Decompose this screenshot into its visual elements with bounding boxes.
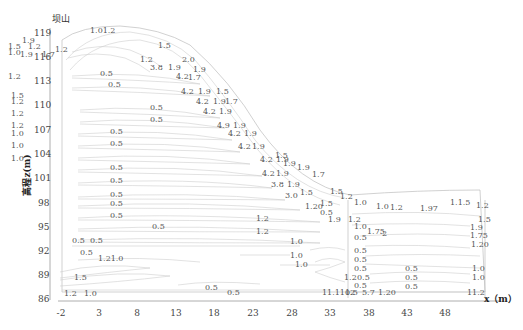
contour-label: 1.9 <box>168 63 181 72</box>
x-tick-labels: -2 3 8 13 18 23 28 33 38 43 48 <box>57 308 451 318</box>
contour-label: 1.2 <box>55 45 68 54</box>
x-tick: 18 <box>208 308 220 318</box>
contour-label: 0.5 <box>354 246 367 255</box>
contour-label: 1.0 <box>290 237 303 246</box>
contour-label: 1.0 <box>472 273 485 282</box>
contour-label: 0.5 <box>72 236 85 245</box>
contour-label: 0.5 <box>110 199 123 208</box>
contour-label: 1.9 <box>244 129 257 138</box>
contour-label: 1.9 <box>276 155 289 164</box>
x-tick: 8 <box>134 308 140 318</box>
contour-label: 1.97 <box>420 204 438 213</box>
contour-label: 0.5 <box>405 264 418 273</box>
contour-label: 0.5 <box>405 273 418 282</box>
contour-label: 1.9 <box>328 215 341 224</box>
contour-label: 0.5 <box>80 248 93 257</box>
contour-label: 1.0 <box>84 289 97 298</box>
contour-label: 1.5 <box>74 273 87 282</box>
contour-label: 0.5 <box>150 115 163 124</box>
contour-label: 1.9 <box>213 97 226 106</box>
contour-label: 1.7 <box>312 170 325 179</box>
contour-label: 1.2 <box>11 97 24 106</box>
contour-label: 1.9 <box>276 169 289 178</box>
contour-label: 1.21.0 <box>98 254 123 263</box>
corner-label: 坝山 <box>52 14 70 24</box>
contour-label: 0.5 <box>108 80 121 89</box>
contour-label: 3.0 <box>285 191 298 200</box>
contour-label: 1.01.2 <box>90 26 115 35</box>
contour-label: 4.2 <box>238 142 251 151</box>
contour-label: 1.0 <box>354 222 367 231</box>
contour-label: 1.0 <box>11 141 24 150</box>
x-tick: -2 <box>57 308 66 318</box>
contour-label: 1.0 <box>295 260 308 269</box>
contour-label: 1.75 <box>470 231 488 240</box>
y-tick: 95 <box>38 222 50 232</box>
y-tick: 119 <box>34 28 51 38</box>
y-tick: 110 <box>34 100 51 110</box>
contour-label: 0.5 <box>90 236 103 245</box>
contour-label: 1.0 <box>376 202 389 211</box>
x-tick: 13 <box>170 308 182 318</box>
contour-label: 0.5 <box>110 190 123 199</box>
contour-label: 1.5 <box>158 41 171 50</box>
contour-label: 1.0 <box>290 251 303 260</box>
x-tick: 48 <box>439 308 451 318</box>
contour-label: 1.5 <box>300 188 313 197</box>
contour-label: 1.0 <box>8 48 21 57</box>
contour-label: 4.2 <box>228 129 241 138</box>
contour-label: 4.2 <box>262 169 275 178</box>
contour-label: 1.9 <box>297 163 310 172</box>
contour-label: 1.2 <box>476 201 489 210</box>
contour-label: 1.2 <box>390 203 403 212</box>
contour-label: 3.8 <box>150 63 163 72</box>
x-tick: 3 <box>96 308 102 318</box>
contour-label: 4.2 <box>176 72 189 81</box>
contour-label: 0.5 <box>110 176 123 185</box>
contour-label: 0.5 <box>354 264 367 273</box>
contour-label: 1.0 <box>472 264 485 273</box>
contour-label: 0.5 <box>110 139 123 148</box>
contour-label: 1.7 <box>42 50 55 59</box>
contour-label: 0.5 <box>354 233 367 242</box>
contour-label: 0.5 <box>110 211 123 220</box>
contour-label: 1.2 <box>256 214 269 223</box>
contour-label: 0.5 <box>110 127 123 136</box>
contour-label: 2.0 <box>182 55 195 64</box>
contour-label: 0.5 <box>345 288 358 297</box>
contour-label: 4.2 <box>181 87 194 96</box>
contour-label: 0.5 <box>100 69 113 78</box>
contour-label: 1.20 <box>378 288 396 297</box>
contour-label: 1.2 <box>64 289 77 298</box>
y-tick: 89 <box>38 270 50 280</box>
contour-label: 1.9 <box>252 142 265 151</box>
contour-label: 1.9 <box>198 87 211 96</box>
contour-label: 1.2 <box>8 72 21 81</box>
contour-label: 0.5 <box>405 282 418 291</box>
contour-label: 0.5 <box>227 288 240 297</box>
x-tick: 28 <box>286 308 298 318</box>
contour-label: 1.5 <box>320 199 333 208</box>
y-tick: 104 <box>34 149 51 159</box>
contour-label: 3.8 <box>271 180 284 189</box>
contour-chart: 坝山 119 116 113 110 107 104 101 98 95 92 … <box>0 0 523 330</box>
contour-label: 5.7 <box>362 288 375 297</box>
contour-label: 4.2 <box>196 97 209 106</box>
contour-label: 2 <box>382 229 387 238</box>
x-tick: 43 <box>401 308 413 318</box>
y-tick: 113 <box>34 76 51 86</box>
contour-label: 1.9 <box>20 50 33 59</box>
contour-label: 0.5 <box>110 163 123 172</box>
x-tick: 23 <box>247 308 259 318</box>
contour-label: 4.2 <box>203 107 216 116</box>
contour-label: 1.5 <box>216 87 229 96</box>
contour-label: 0.5 <box>205 283 218 292</box>
y-tick: 86 <box>38 294 50 304</box>
contour-label: 0.5 <box>150 103 163 112</box>
contour-label: 1.2 <box>256 227 269 236</box>
contour-label: 0.5 <box>152 222 165 231</box>
contour-label: 1.2 <box>11 109 24 118</box>
contour-label: 1.9 <box>287 180 300 189</box>
contour-labels: 1.01.21.91.51.21.01.91.71.21.51.23.81.92… <box>8 26 491 298</box>
x-axis-title: x（m） <box>484 294 517 304</box>
